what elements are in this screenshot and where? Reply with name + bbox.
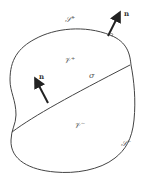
label-interface-sigma: σ [89, 71, 95, 80]
label-surface-plus: 𝒮⁺ [65, 15, 75, 24]
interface-curve [12, 65, 130, 132]
outer-boundary [10, 29, 135, 173]
diagram-canvas: 𝒮⁺ n 𝒱⁺ σ n 𝒱⁻ 𝒮⁻ [0, 0, 143, 180]
label-normal-interface: n [39, 72, 44, 81]
label-surface-minus: 𝒮⁻ [121, 139, 131, 148]
interface-normal-arrow [36, 80, 48, 103]
label-volume-minus: 𝒱⁻ [74, 121, 85, 130]
label-volume-plus: 𝒱⁺ [64, 56, 75, 65]
label-normal-outer: n [124, 9, 129, 18]
outer-normal-arrow [108, 14, 119, 36]
